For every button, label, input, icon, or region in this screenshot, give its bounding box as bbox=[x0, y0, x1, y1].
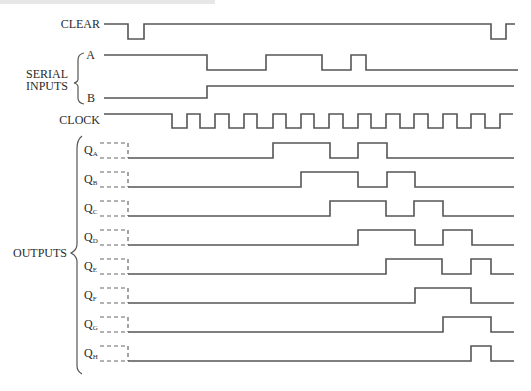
waveforms bbox=[100, 24, 518, 361]
outputs-brace bbox=[71, 136, 82, 374]
output-h-label: QH bbox=[84, 346, 98, 361]
output-d-undefined-state bbox=[100, 230, 128, 245]
output-a-undefined-state bbox=[100, 143, 128, 158]
serial-b-waveform bbox=[104, 86, 514, 98]
output-g-waveform bbox=[128, 317, 514, 332]
output-d-label: QD bbox=[84, 230, 98, 245]
output-b-waveform bbox=[128, 172, 514, 187]
serial-inputs-brace bbox=[74, 53, 84, 104]
output-g-undefined-state bbox=[100, 317, 128, 332]
input-b-label: B bbox=[87, 91, 95, 105]
output-a-waveform bbox=[128, 143, 514, 158]
output-e-waveform bbox=[128, 259, 514, 274]
serial-a-waveform bbox=[104, 55, 518, 70]
output-g-label: QG bbox=[84, 317, 98, 332]
input-a-label: A bbox=[86, 48, 95, 62]
serial-inputs-label-line2: INPUTS bbox=[26, 79, 68, 93]
output-d-waveform bbox=[128, 230, 514, 245]
output-b-undefined-state bbox=[100, 172, 128, 187]
output-f-label: QF bbox=[84, 288, 97, 303]
output-f-waveform bbox=[128, 288, 514, 303]
shift-register-timing-diagram: CLEAR A B SERIAL INPUTS CLOCK OUTPUTS QA… bbox=[0, 0, 531, 391]
output-a-label: QA bbox=[84, 143, 98, 158]
output-labels: QAQBQCQDQEQFQGQH bbox=[84, 143, 98, 361]
output-c-label: QC bbox=[84, 201, 98, 216]
output-e-undefined-state bbox=[100, 259, 128, 274]
output-h-waveform bbox=[128, 346, 514, 361]
output-b-label: QB bbox=[84, 172, 98, 187]
output-e-label: QE bbox=[84, 259, 97, 274]
clear-label: CLEAR bbox=[61, 17, 100, 31]
output-f-undefined-state bbox=[100, 288, 128, 303]
clock-label: CLOCK bbox=[59, 113, 100, 127]
output-c-waveform bbox=[128, 201, 514, 216]
clear-waveform bbox=[104, 24, 515, 39]
output-c-undefined-state bbox=[100, 201, 128, 216]
outputs-label: OUTPUTS bbox=[13, 246, 67, 260]
clock-waveform bbox=[104, 114, 513, 128]
output-h-undefined-state bbox=[100, 346, 128, 361]
